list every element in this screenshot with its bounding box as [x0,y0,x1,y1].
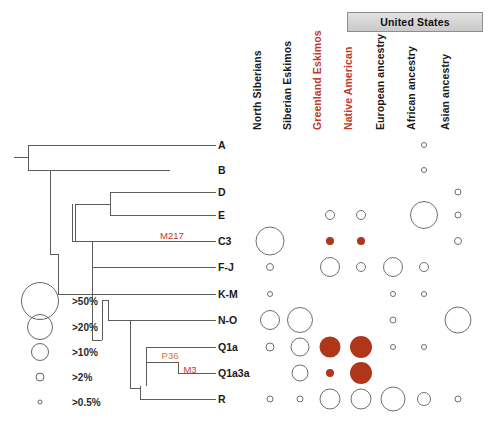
bubble-c3-north-siberians [256,227,285,256]
tree-branch-horizontal [146,347,216,348]
clade-label-k-m: K-M [218,288,238,300]
bubble-f-j-north-siberians [266,263,274,271]
clade-label-r: R [218,393,226,405]
tree-branch-vertical [146,347,147,386]
tree-branch-horizontal [146,362,178,363]
tree-branch-vertical [28,145,29,170]
column-header-label: Greenland Eskimos [311,30,323,130]
bubble-f-j-greenland-eskimos [320,257,340,277]
bubble-n-o-asian-ancestry [445,307,472,334]
group-header-united-states: United States [347,12,483,32]
bubble-c3-native-american [357,237,365,245]
column-header-label: Siberian Eskimos [281,41,293,130]
bubble-q1a3a-siberian-eskimos [292,365,309,382]
bubble-n-o-european-ancestry [390,317,397,324]
tree-branch-horizontal [140,399,216,400]
legend-label: >2% [72,372,92,383]
tree-branch-vertical [72,204,73,241]
mutation-label-m3: M3 [183,364,196,375]
bubble-q1a3a-greenland-eskimos [326,369,334,377]
bubble-c3-asian-ancestry [454,237,462,245]
tree-branch-horizontal [130,388,140,389]
tree-branch-horizontal [75,204,110,205]
bubble-f-j-native-american [356,262,366,272]
clade-label-b: B [218,164,226,176]
tree-branch-horizontal [110,215,216,216]
column-header-label: Native American [342,47,354,130]
bubble-c3-greenland-eskimos [326,237,334,245]
bubble-q1a-native-american [350,336,372,358]
bubble-b-african-ancestry [421,167,427,173]
bubble-e-asian-ancestry [455,212,462,219]
tree-branch-horizontal [72,241,180,242]
bubble-r-siberian-eskimos [297,396,304,403]
clade-label-n-o: N-O [218,314,237,326]
bubble-e-greenland-eskimos [325,210,335,220]
column-header-asian-ancestry: Asian ancestry [451,40,465,130]
bubble-f-j-european-ancestry [383,257,403,277]
legend-circle [31,343,49,361]
bubble-f-j-african-ancestry [419,262,429,272]
clade-label-f-j: F-J [218,261,234,273]
clade-label-d: D [218,186,226,198]
column-header-native-american: Native American [354,40,368,130]
figure-root: United States North SiberiansSiberian Es… [0,0,488,428]
column-header-african-ancestry: African ancestry [417,40,431,130]
tree-branch-vertical [178,362,179,373]
tree-branch-horizontal [180,241,216,242]
tree-branch-vertical [140,386,141,399]
column-header-label: Asian ancestry [439,54,451,130]
bubble-r-greenland-eskimos [320,389,341,410]
tree-branch-vertical [130,320,131,388]
mutation-label-p36: P36 [162,350,179,361]
bubble-a-african-ancestry [421,142,427,148]
tree-branch-horizontal [108,320,216,321]
tree-branch-vertical [58,254,59,294]
legend-label: >0.5% [72,397,101,408]
legend-circle [38,400,43,405]
bubble-q1a-north-siberians [266,343,275,352]
legend-circle [36,373,45,382]
tree-branch-vertical [92,241,93,267]
column-header-european-ancestry: European ancestry [386,40,400,130]
group-header-label: United States [348,13,482,31]
clade-label-q1a: Q1a [218,341,238,353]
tree-branch-vertical [110,192,111,215]
tree-branch-horizontal [92,267,216,268]
clade-label-e: E [218,209,225,221]
tree-branch-vertical [102,300,103,340]
bubble-e-native-american [356,210,366,220]
bubble-q1a-european-ancestry [390,344,396,350]
legend-label: >10% [72,347,98,358]
bubble-k-m-north-siberians [267,291,273,297]
column-header-label: European ancestry [374,34,386,130]
bubble-q1a-greenland-eskimos [320,337,341,358]
bubble-n-o-siberian-eskimos [287,307,313,333]
column-header-label: African ancestry [405,46,417,130]
tree-branch-horizontal [50,254,58,255]
bubble-r-asian-ancestry [455,396,462,403]
clade-label-a: A [218,139,226,151]
clade-label-q1a3a: Q1a3a [218,367,250,379]
legend-label: >50% [72,296,98,307]
tree-branch-horizontal [14,157,28,158]
bubble-k-m-african-ancestry [421,291,427,297]
tree-branch-vertical [50,170,51,254]
mutation-label-m217: M217 [160,230,184,241]
bubble-q1a-siberian-eskimos [291,338,310,357]
column-header-label: North Siberians [251,50,263,130]
column-header-north-siberians: North Siberians [263,40,277,130]
bubble-r-african-ancestry [417,392,431,406]
bubble-q1a3a-native-american [350,362,372,384]
bubble-q1a-african-ancestry [421,344,427,350]
legend-label: >20% [72,322,98,333]
tree-branch-horizontal [110,192,216,193]
bubble-n-o-north-siberians [260,310,280,330]
legend-circle [27,314,53,340]
bubble-r-north-siberians [267,396,274,403]
tree-branch-vertical [75,204,76,241]
column-header-siberian-eskimos: Siberian Eskimos [293,40,307,130]
bubble-k-m-european-ancestry [390,291,396,297]
tree-branch-vertical [108,300,109,320]
bubble-r-native-american [351,389,372,410]
